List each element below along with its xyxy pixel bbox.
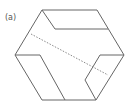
top-inner-diagonal	[42, 10, 55, 29]
inner-lines	[15, 10, 124, 100]
right-inner-left-upper	[85, 55, 100, 80]
hexagon-diagram	[0, 0, 135, 109]
dashed-line	[31, 34, 108, 75]
right-inner-left-lower	[85, 80, 96, 100]
figure-panel: (a)	[0, 0, 135, 109]
left-inner-diagonal	[40, 55, 65, 100]
